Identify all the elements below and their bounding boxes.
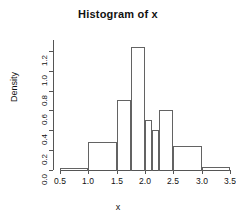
histogram-bar	[202, 167, 230, 171]
histogram-bar	[152, 130, 159, 171]
histogram-plot: Histogram of x Density x 0.00.20.40.60.8…	[0, 0, 236, 224]
histogram-bar	[159, 110, 173, 171]
histogram-bar	[60, 168, 88, 171]
histogram-bar	[117, 100, 131, 171]
histogram-bars	[0, 0, 236, 224]
histogram-bar	[131, 47, 145, 171]
histogram-bar	[88, 142, 116, 171]
histogram-bar	[145, 120, 152, 171]
histogram-bar	[173, 146, 201, 171]
